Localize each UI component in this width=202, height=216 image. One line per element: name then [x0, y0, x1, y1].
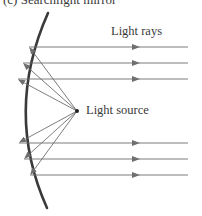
mirror-curve	[26, 13, 48, 208]
incident-ray	[24, 64, 77, 111]
light-source-label: Light source	[86, 103, 149, 118]
arrow-right-icon	[132, 60, 140, 66]
arrow-right-icon	[132, 140, 140, 146]
arrow-right-icon	[132, 172, 140, 178]
light-rays-label: Light rays	[111, 24, 162, 39]
arrow-right-icon	[132, 44, 140, 50]
incident-ray	[31, 111, 77, 174]
incident-ray	[30, 48, 77, 111]
arrow-right-icon	[132, 76, 140, 82]
light-source-point	[75, 109, 79, 113]
incident-rays	[19, 48, 77, 174]
incident-ray	[25, 111, 77, 158]
arrow-right-icon	[132, 156, 140, 162]
